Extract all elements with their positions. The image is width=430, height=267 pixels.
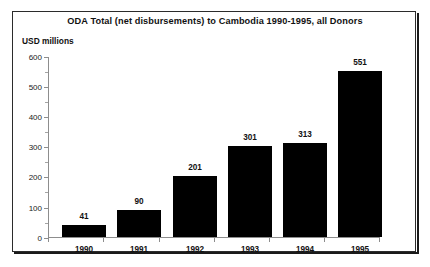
chart-title: ODA Total (net disbursements) to Cambodi… [0,16,430,26]
x-tick-4 [269,238,270,242]
bar-1991 [117,210,161,237]
y-tick-300 [44,147,48,148]
y-axis-label: USD millions [22,36,74,46]
y-tick-400 [44,117,48,118]
x-tick-3 [214,238,215,242]
chart-frame-shadow-right [417,13,419,254]
y-tick-minor-550 [45,72,48,73]
y-tick-minor-50 [45,223,48,224]
bar-1990 [62,225,106,237]
y-tick-600 [44,57,48,58]
bar-value-1990: 41 [79,212,88,221]
y-tick-label-300: 300 [2,143,42,152]
bar-1994 [283,143,327,237]
x-tick-6 [379,238,380,242]
x-category-label-1991: 1991 [130,245,148,254]
x-category-label-1992: 1992 [186,245,204,254]
x-category-label-1993: 1993 [241,245,259,254]
y-tick-500 [44,87,48,88]
bar-1995 [338,71,382,237]
bar-1993 [228,146,272,237]
y-tick-label-600: 600 [2,53,42,62]
bar-value-1993: 301 [243,133,257,142]
y-axis-line [48,57,49,238]
y-tick-label-500: 500 [2,83,42,92]
y-tick-label-0: 0 [2,234,42,243]
x-tick-1 [103,238,104,242]
bar-value-1992: 201 [188,163,202,172]
x-category-label-1990: 1990 [75,245,93,254]
y-tick-100 [44,208,48,209]
bar-value-1994: 313 [298,130,312,139]
y-tick-minor-150 [45,192,48,193]
x-tick-2 [159,238,160,242]
plot-area: 0 100 200 300 400 500 600 41 1990 [48,55,396,239]
bar-value-1995: 551 [353,58,367,67]
x-category-label-1994: 1994 [296,245,314,254]
y-tick-200 [44,177,48,178]
x-tick-5 [324,238,325,242]
chart-figure: ODA Total (net disbursements) to Cambodi… [0,0,430,267]
y-tick-minor-250 [45,162,48,163]
x-category-label-1995: 1995 [351,245,369,254]
y-tick-minor-450 [45,102,48,103]
y-tick-minor-350 [45,132,48,133]
y-tick-label-100: 100 [2,204,42,213]
bar-value-1991: 90 [134,197,143,206]
x-tick-0 [48,238,49,242]
bar-1992 [173,176,217,237]
y-tick-label-400: 400 [2,113,42,122]
y-tick-label-200: 200 [2,173,42,182]
